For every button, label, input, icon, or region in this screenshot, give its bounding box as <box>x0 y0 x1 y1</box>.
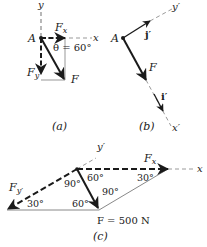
label-a: A <box>27 32 36 45</box>
label-fx: Fx <box>54 21 68 35</box>
angle-60-bottom: 60° <box>72 198 89 209</box>
label-x-c: x <box>197 163 203 174</box>
y-prime-axis-extension <box>77 158 96 169</box>
angle-90-right: 90° <box>102 186 119 197</box>
label-y: y <box>37 0 44 10</box>
force-f-arrow-b <box>123 38 146 80</box>
panel-a: y A Fx x θ = 60° Fy F (a) <box>26 0 99 133</box>
angle-30-left: 30° <box>27 198 44 209</box>
label-j-prime: j′ <box>144 29 152 40</box>
caption-b: (b) <box>139 120 155 133</box>
angle-30-right: 30° <box>137 172 154 183</box>
label-f-b: F <box>148 61 157 74</box>
label-theta: θ = 60° <box>53 42 91 53</box>
caption-c: (c) <box>93 230 108 243</box>
label-fy: Fy <box>26 66 40 80</box>
label-i-prime: i′ <box>161 91 168 102</box>
label-x: x <box>93 32 99 43</box>
point-a-c <box>75 167 79 171</box>
panel-c: y′ Fx x 60° 30° 90° 90° Fy′ 30° 60° F = … <box>7 141 203 243</box>
label-fx-c: Fx <box>143 152 157 166</box>
point-a <box>39 36 43 40</box>
label-fy-prime-c: Fy′ <box>8 181 23 195</box>
label-y-prime: y′ <box>171 1 181 12</box>
label-force-value: F = 500 N <box>97 215 150 226</box>
label-a-b: A <box>110 32 119 45</box>
label-x-prime: x′ <box>172 122 181 133</box>
label-y-prime-c: y′ <box>96 141 106 152</box>
angle-90-top: 90° <box>64 178 81 189</box>
caption-a: (a) <box>52 120 67 133</box>
panel-b: y′ A j′ F i′ (b) x′ <box>110 1 181 133</box>
force-diagram: y A Fx x θ = 60° Fy F (a) y′ A j′ F i′ (… <box>0 0 207 247</box>
point-a-b <box>121 36 125 40</box>
angle-60-top: 60° <box>87 172 104 183</box>
y-prime-axis-dashed <box>150 9 172 21</box>
label-f: F <box>70 73 79 86</box>
